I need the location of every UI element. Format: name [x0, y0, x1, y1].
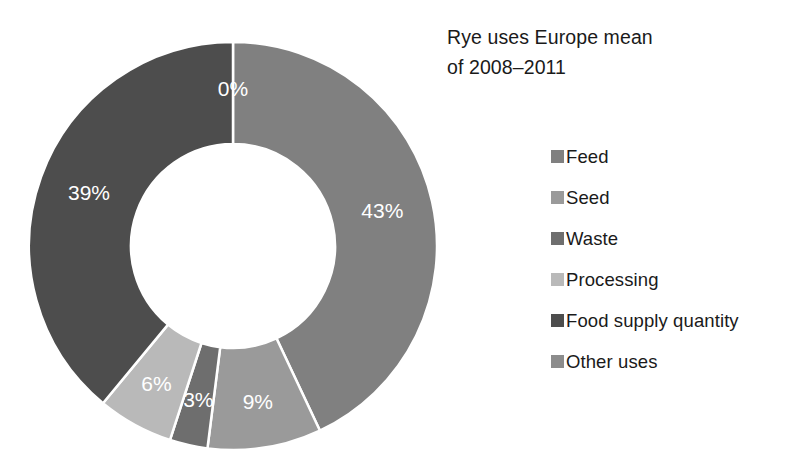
chart-title-line-2: of 2008–2011	[447, 52, 787, 82]
legend-item-other-uses[interactable]: Other uses	[551, 341, 801, 382]
legend-item-seed[interactable]: Seed	[551, 177, 801, 218]
donut-slice-label-waste: 3%	[183, 388, 213, 411]
donut-slice-label-feed: 43%	[361, 199, 403, 222]
legend-label-other-uses: Other uses	[566, 352, 658, 372]
legend-label-processing: Processing	[566, 270, 659, 290]
legend-item-feed[interactable]: Feed	[551, 136, 801, 177]
legend-swatch-icon-waste	[551, 232, 564, 245]
legend-swatch-icon-feed	[551, 150, 564, 163]
donut-slice-layer	[29, 42, 437, 450]
legend-label-seed: Seed	[566, 188, 610, 208]
legend-swatch-icon-processing	[551, 273, 564, 286]
chart-title: Rye uses Europe mean of 2008–2011	[447, 22, 787, 82]
chart-legend: FeedSeedWasteProcessingFood supply quant…	[551, 136, 801, 382]
legend-label-food-supply-quantity: Food supply quantity	[566, 311, 739, 331]
donut-slice-label-processing: 6%	[141, 372, 171, 395]
donut-slice-label-seed: 9%	[243, 390, 273, 413]
legend-swatch-icon-other-uses	[551, 355, 564, 368]
legend-label-feed: Feed	[566, 147, 609, 167]
donut-slice-label-food-supply-quantity: 39%	[68, 181, 110, 204]
donut-chart-plot-area: 43%9%3%6%39%0%	[29, 42, 437, 450]
donut-chart-svg: 43%9%3%6%39%0%	[29, 42, 437, 450]
legend-item-food-supply-quantity[interactable]: Food supply quantity	[551, 300, 801, 341]
legend-swatch-icon-food-supply-quantity	[551, 314, 564, 327]
chart-title-line-1: Rye uses Europe mean	[447, 22, 787, 52]
legend-label-waste: Waste	[566, 229, 618, 249]
legend-swatch-icon-seed	[551, 191, 564, 204]
donut-chart-figure: 43%9%3%6%39%0% Rye uses Europe mean of 2…	[0, 0, 804, 472]
legend-item-processing[interactable]: Processing	[551, 259, 801, 300]
legend-item-waste[interactable]: Waste	[551, 218, 801, 259]
donut-slice-label-other-uses: 0%	[218, 77, 248, 100]
